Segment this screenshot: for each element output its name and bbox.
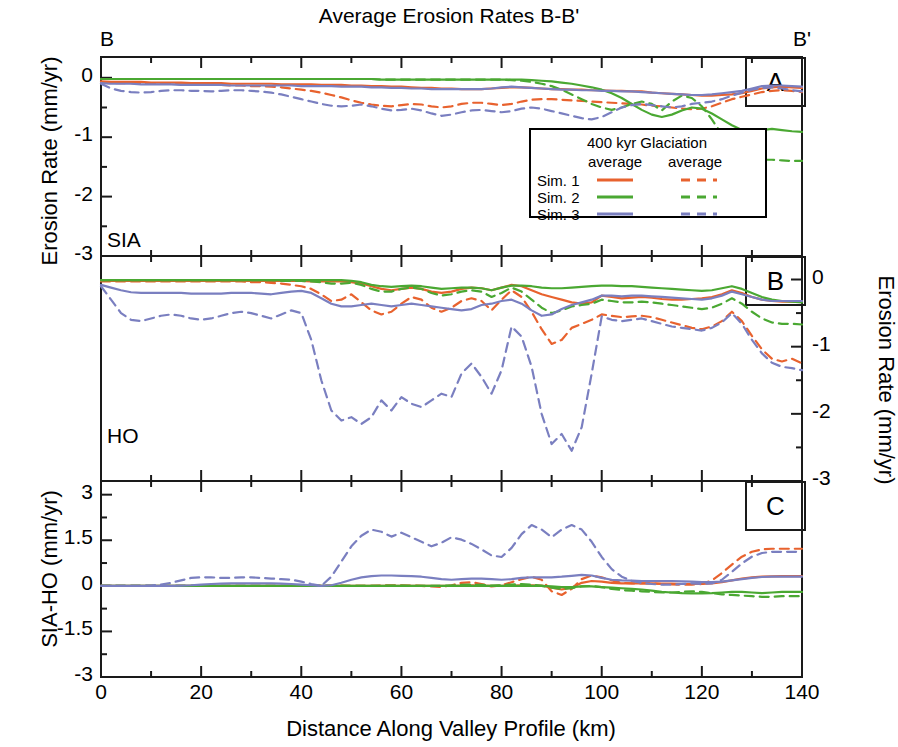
ytick-a-1: -1 bbox=[0, 122, 93, 146]
xtick-7: 140 bbox=[762, 680, 842, 704]
xtick-3: 60 bbox=[361, 680, 441, 704]
ytick-b-2: -2 bbox=[812, 399, 831, 423]
series-c-3 bbox=[101, 584, 802, 597]
legend: 400 kyr Glaciation average average Sim. … bbox=[529, 128, 767, 218]
ytick-a-2: -2 bbox=[0, 182, 93, 206]
ytick-b-1: -1 bbox=[812, 332, 831, 356]
series-b-5 bbox=[101, 286, 802, 451]
ytick-a-0: 0 bbox=[0, 63, 93, 87]
ytick-b-3: -3 bbox=[812, 466, 831, 490]
series-c-2 bbox=[101, 586, 802, 594]
series-c-5 bbox=[101, 525, 802, 586]
ytick-c-3: -1.5 bbox=[0, 616, 93, 640]
ytick-c-1: 1.5 bbox=[0, 525, 93, 549]
xtick-4: 80 bbox=[462, 680, 542, 704]
legend-swatches bbox=[531, 130, 769, 220]
series-a-4 bbox=[101, 83, 802, 95]
ytick-c-0: 3 bbox=[0, 480, 93, 504]
ytick-a-3: -3 bbox=[0, 241, 93, 265]
ytick-b-0: 0 bbox=[812, 265, 824, 289]
plot-canvas bbox=[0, 0, 898, 747]
series-c-1 bbox=[101, 549, 802, 595]
xtick-5: 100 bbox=[562, 680, 642, 704]
xtick-2: 40 bbox=[261, 680, 341, 704]
series-b-3 bbox=[101, 280, 802, 324]
xtick-0: 0 bbox=[61, 680, 141, 704]
xtick-6: 120 bbox=[662, 680, 742, 704]
xtick-1: 20 bbox=[161, 680, 241, 704]
ytick-c-2: 0 bbox=[0, 571, 93, 595]
figure-root: Average Erosion Rates B-B' B B' Erosion … bbox=[0, 0, 898, 747]
